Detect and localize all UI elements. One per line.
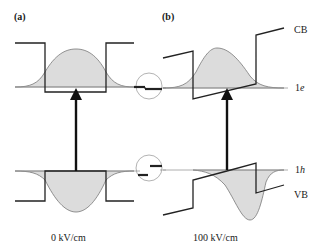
panel-b xyxy=(163,28,288,220)
hole-wavefunction-b xyxy=(193,170,284,220)
panel-a-field-caption: 0 kV/cm xyxy=(51,233,86,243)
panel-b-field-caption: 100 kV/cm xyxy=(193,233,238,243)
electron-wavefunction-a xyxy=(15,49,134,87)
panel-a xyxy=(15,43,134,212)
hole-level-sym: h xyxy=(300,164,305,175)
inset-circle-vb xyxy=(136,155,162,181)
hole-wavefunction-a xyxy=(15,171,134,212)
panel-a-label: (a) xyxy=(14,12,26,22)
transition-arrow-head-a xyxy=(70,88,82,100)
cb-label: CB xyxy=(294,25,307,35)
electron-level-sym: e xyxy=(300,82,304,93)
inset-circles xyxy=(134,73,166,181)
quantum-well-band-diagram xyxy=(0,0,318,252)
panel-b-label: (b) xyxy=(162,12,174,22)
electron-level-label: 1e xyxy=(295,83,304,93)
vb-label: VB xyxy=(294,190,308,200)
hole-level-label: 1h xyxy=(295,165,305,175)
